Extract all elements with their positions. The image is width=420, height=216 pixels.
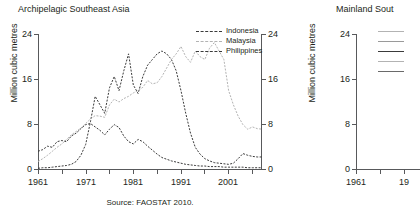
- x-tick-label-mainland: 19: [384, 177, 420, 187]
- legend-item-mainland-1: [378, 26, 408, 36]
- y-tick-right: [262, 34, 266, 35]
- legend-swatch-mainland-1: [378, 31, 404, 32]
- legend-swatch-mainland-2: [378, 41, 404, 42]
- y-tick-label-right: 8: [268, 120, 292, 129]
- x-tick-label: 1971: [66, 177, 106, 187]
- x-tick-label-mainland: 1961: [336, 177, 376, 187]
- y-tick-label-mainland: 0: [326, 165, 350, 174]
- x-tick: [204, 170, 205, 174]
- x-tick: [38, 170, 39, 174]
- legend-swatch-philippines: [196, 51, 222, 52]
- y-tick-mainland: [352, 124, 356, 125]
- y-axis-label-mainland: Million cubic metres: [307, 18, 317, 108]
- x-tick: [157, 170, 158, 174]
- x-axis-line-mainland: [356, 169, 420, 170]
- chart-legend: Indonesia Malaysia Philippines: [196, 26, 262, 56]
- y-tick-mainland: [352, 79, 356, 80]
- panel-title-mainland: Mainland Sout: [336, 4, 394, 14]
- chart-legend-mainland: [378, 26, 408, 76]
- x-tick: [109, 170, 110, 174]
- x-tick: [228, 170, 229, 174]
- source-note: Source: FAOSTAT 2010.: [0, 198, 300, 207]
- x-tick-label: 2001: [208, 177, 248, 187]
- y-tick-label: 16: [8, 75, 32, 84]
- figure-faostat-roundwood: Archipelagic Southeast Asia Million cubi…: [0, 0, 420, 216]
- y-tick-mainland: [352, 34, 356, 35]
- y-tick-label-right: 16: [268, 75, 292, 84]
- x-tick: [86, 170, 87, 174]
- legend-swatch-indonesia: [196, 31, 222, 32]
- x-tick: [252, 170, 253, 174]
- legend-swatch-mainland-5: [378, 71, 404, 72]
- x-tick-mainland: [380, 170, 381, 174]
- y-tick-right: [262, 79, 266, 80]
- legend-item-mainland-5: [378, 66, 408, 76]
- x-tick: [181, 170, 182, 174]
- y-tick-right: [262, 169, 266, 170]
- x-tick-label: 1991: [161, 177, 201, 187]
- x-tick-mainland: [356, 170, 357, 174]
- y-tick-label: 24: [8, 30, 32, 39]
- y-tick-label-mainland: 16: [326, 75, 350, 84]
- chart-panel-archipelagic: Archipelagic Southeast Asia Million cubi…: [0, 0, 300, 216]
- legend-item-indonesia: Indonesia: [196, 26, 262, 36]
- y-tick-label-mainland: 8: [326, 120, 350, 129]
- y-tick-label-mainland: 24: [326, 30, 350, 39]
- y-tick-right: [262, 124, 266, 125]
- legend-item-mainland-2: [378, 36, 408, 46]
- legend-label-indonesia: Indonesia: [226, 26, 259, 36]
- x-tick: [62, 170, 63, 174]
- legend-item-philippines: Philippines: [196, 46, 262, 56]
- legend-label-philippines: Philippines: [226, 46, 262, 56]
- y-tick-label-right: 0: [268, 165, 292, 174]
- x-tick-label: 1981: [113, 177, 153, 187]
- legend-swatch-mainland-3: [378, 51, 404, 52]
- y-tick-label: 8: [8, 120, 32, 129]
- x-tick-label: 1961: [18, 177, 58, 187]
- legend-item-mainland-3: [378, 46, 408, 56]
- y-tick-label-right: 24: [268, 30, 292, 39]
- legend-swatch-malaysia: [196, 41, 222, 42]
- y-tick-label: 0: [8, 165, 32, 174]
- panel-title: Archipelagic Southeast Asia: [18, 4, 130, 14]
- x-tick-mainland: [404, 170, 405, 174]
- legend-item-mainland-4: [378, 56, 408, 66]
- chart-panel-mainland: Mainland Sout Million cubic metres 0 8 1…: [300, 0, 420, 216]
- y-axis-line-mainland: [356, 34, 357, 170]
- legend-item-malaysia: Malaysia: [196, 36, 262, 46]
- legend-label-malaysia: Malaysia: [226, 36, 256, 46]
- x-tick: [133, 170, 134, 174]
- legend-swatch-mainland-4: [378, 61, 404, 62]
